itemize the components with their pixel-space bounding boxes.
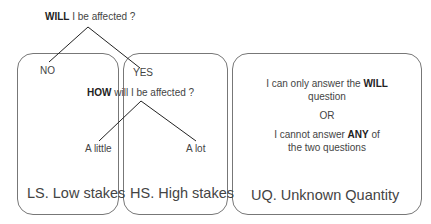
label-low-stakes: LS. Low stakes: [27, 185, 125, 201]
uq-line-1-text: I can only answer the: [266, 78, 363, 89]
root-question-bold: WILL: [45, 11, 69, 22]
sub-question-rest: will I be affected ?: [111, 87, 194, 98]
branch-yes-label: YES: [133, 67, 153, 78]
uq-line-3-post: of: [369, 129, 380, 140]
uq-line-3-bold: ANY: [348, 129, 369, 140]
uq-line-1: I can only answer the WILL: [232, 78, 422, 89]
uq-or: OR: [232, 110, 422, 121]
uq-line-2: question: [232, 91, 422, 102]
uq-line-4: the two questions: [232, 142, 422, 153]
uq-line-1-bold: WILL: [363, 78, 387, 89]
leaf-a-lot: A lot: [186, 143, 205, 154]
label-unknown-quantity: UQ. Unknown Quantity: [251, 187, 399, 203]
label-high-stakes: HS. High stakes: [130, 185, 234, 201]
branch-no-label: NO: [40, 65, 55, 76]
root-question-rest: I be affected ?: [69, 11, 135, 22]
root-question: WILL I be affected ?: [45, 11, 135, 22]
uq-line-3: I cannot answer ANY of: [232, 129, 422, 140]
uq-line-3-text: I cannot answer: [274, 129, 347, 140]
sub-question-bold: HOW: [87, 87, 111, 98]
sub-question: HOW will I be affected ?: [87, 87, 194, 98]
leaf-a-little: A little: [85, 143, 112, 154]
